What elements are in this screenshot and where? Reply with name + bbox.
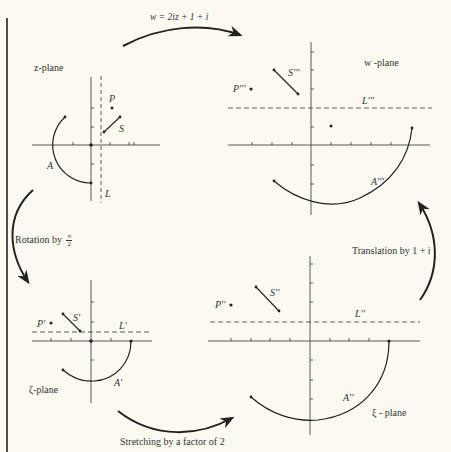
arrow-top-transform bbox=[123, 27, 240, 46]
conformal-mapping-figure: z-plane P S A L w -plane P''' S''' L''' … bbox=[0, 0, 451, 452]
xi-segment-S2-label: S'' bbox=[270, 288, 279, 298]
rotation-label-text: Rotation by bbox=[15, 234, 62, 245]
zeta-line-L1-label: L' bbox=[119, 321, 127, 331]
xi-plane-title: ξ - plane bbox=[372, 408, 406, 418]
top-transform-formula: w = 2iz + 1 + i bbox=[150, 13, 208, 23]
z-plane-axes bbox=[32, 77, 160, 201]
xi-point-P2-label: P'' bbox=[215, 300, 225, 310]
zeta-point-P1 bbox=[50, 322, 53, 325]
w-arc-A3 bbox=[273, 127, 414, 204]
z-arc-A-label: A bbox=[47, 161, 53, 171]
zeta-arc-A1 bbox=[62, 339, 133, 381]
xi-arc-A2-label: A'' bbox=[343, 393, 353, 403]
w-arc-A3-label: A''' bbox=[371, 177, 384, 187]
w-line-L3-label: L''' bbox=[362, 96, 374, 106]
w-plane-title: w -plane bbox=[364, 58, 399, 68]
z-segment-S-label: S bbox=[119, 124, 124, 134]
z-arc-A bbox=[53, 116, 93, 185]
w-image-dot bbox=[330, 125, 333, 128]
rotation-fraction-den: 2 bbox=[67, 241, 71, 248]
z-line-L-label: L bbox=[105, 189, 111, 199]
zeta-origin-dot bbox=[89, 339, 93, 343]
w-segment-S3-label: S''' bbox=[288, 68, 299, 78]
rotation-label: Rotation by π 2 bbox=[15, 233, 72, 248]
xi-line-L2-label: L'' bbox=[355, 309, 365, 319]
zeta-arc-A1-label: A' bbox=[114, 378, 122, 388]
arrow-bottom-stretch bbox=[118, 411, 232, 432]
z-plane-title: z-plane bbox=[34, 63, 63, 73]
xi-arc-A2 bbox=[250, 339, 391, 420]
xi-point-P2 bbox=[229, 303, 232, 306]
stretch-label: Stretching by a factor of 2 bbox=[120, 437, 225, 447]
w-plane-axes bbox=[228, 42, 430, 215]
z-point-P bbox=[111, 107, 114, 110]
translation-label: Translation by 1 + i bbox=[352, 246, 431, 256]
w-point-P3-label: P''' bbox=[233, 84, 246, 94]
w-point-P3 bbox=[249, 87, 252, 90]
rotation-fraction: π 2 bbox=[66, 233, 72, 248]
zeta-point-P1-label: P' bbox=[37, 319, 45, 329]
zeta-segment-S1-label: S' bbox=[73, 313, 80, 323]
zeta-plane-title: ζ-plane bbox=[29, 385, 58, 395]
z-origin-dot bbox=[89, 143, 93, 147]
z-point-P-label: P bbox=[109, 94, 115, 104]
